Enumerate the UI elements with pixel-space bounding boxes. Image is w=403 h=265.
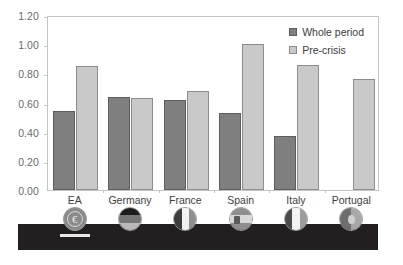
- y-axis-tick-label: 0.20: [18, 156, 39, 168]
- legend-item: Pre-crisis: [289, 44, 364, 56]
- bar: [242, 44, 264, 190]
- y-axis-tick-label: 1.00: [18, 39, 39, 51]
- y-axis-tick: [44, 134, 48, 135]
- bar-group: [214, 17, 269, 190]
- x-axis-category-label: Portugal: [332, 194, 371, 206]
- x-axis-tick: [269, 190, 270, 193]
- bar: [297, 65, 319, 190]
- legend-label: Pre-crisis: [302, 44, 346, 56]
- euro-coin-icon: €: [63, 207, 87, 231]
- country-icons: €: [47, 207, 379, 251]
- y-axis-tick-label: 0.00: [18, 185, 39, 197]
- y-axis-tick: [44, 75, 48, 76]
- x-axis-tick: [159, 190, 160, 193]
- x-axis-tick: [214, 190, 215, 193]
- bar-group: [48, 17, 103, 190]
- bar: [353, 79, 375, 190]
- y-axis-tick-label: 0.80: [18, 68, 39, 80]
- legend-swatch-icon: [289, 28, 297, 36]
- x-axis-category-label: Germany: [108, 194, 151, 206]
- bar: [53, 111, 75, 190]
- bar: [274, 136, 296, 190]
- y-axis-tick-label: 0.40: [18, 127, 39, 139]
- euro-coin-underline: [60, 234, 90, 237]
- bar: [131, 98, 153, 190]
- x-axis-category-label: France: [169, 194, 202, 206]
- x-axis-category-label: Italy: [286, 194, 305, 206]
- y-axis-tick: [44, 17, 48, 18]
- y-axis: 0.000.200.400.600.801.001.20: [0, 16, 44, 191]
- y-axis-tick: [44, 163, 48, 164]
- x-axis-category-labels: EAGermanyFranceSpainItalyPortugal: [47, 194, 379, 208]
- y-axis-tick: [44, 105, 48, 106]
- bar-group: [159, 17, 214, 190]
- x-axis-category-label: Spain: [227, 194, 254, 206]
- bar: [187, 91, 209, 190]
- y-axis-tick-label: 1.20: [18, 10, 39, 22]
- legend-item: Whole period: [289, 26, 364, 38]
- y-axis-tick: [44, 46, 48, 47]
- x-axis-category-label: EA: [68, 194, 82, 206]
- bar: [76, 66, 98, 190]
- x-axis-tick: [103, 190, 104, 193]
- legend-swatch-icon: [289, 46, 297, 54]
- x-axis-tick: [325, 190, 326, 193]
- bar: [219, 113, 241, 190]
- legend-label: Whole period: [302, 26, 364, 38]
- flag-germany-icon: [118, 207, 142, 231]
- legend: Whole periodPre-crisis: [289, 26, 364, 56]
- plot-area: Whole periodPre-crisis: [47, 16, 379, 191]
- flag-portugal-icon: [339, 207, 363, 231]
- bar-chart: 0.000.200.400.600.801.001.20 Whole perio…: [0, 0, 403, 265]
- bar: [164, 100, 186, 190]
- bar-group: [103, 17, 158, 190]
- flag-italy-icon: [284, 207, 308, 231]
- bar: [108, 97, 130, 190]
- flag-france-icon: [173, 207, 197, 231]
- y-axis-tick-label: 0.60: [18, 98, 39, 110]
- flag-spain-icon: [229, 207, 253, 231]
